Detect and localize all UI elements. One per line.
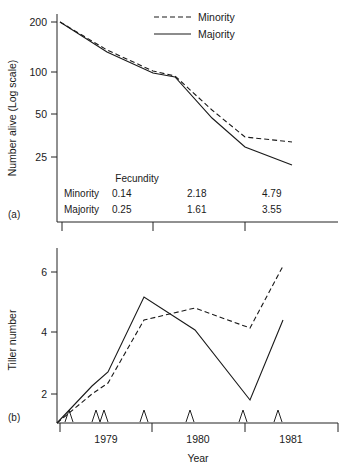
panel-a-ytick-label-200: 200 — [29, 16, 47, 28]
census-marker-6 — [239, 410, 247, 422]
panel-b-series-majority — [57, 297, 283, 423]
fecundity-title: Fecundity — [115, 173, 158, 184]
fecundity-row-majority-name: Majority — [64, 204, 99, 215]
panel-b-ytick-label-6: 6 — [41, 266, 47, 278]
fecundity-row-majority-v2: 1.61 — [187, 204, 207, 215]
figure-svg: 200 100 50 25 Number alive (Log scale) M… — [0, 0, 346, 467]
fecundity-row-minority-name: Minority — [64, 188, 99, 199]
panel-a-series-minority — [60, 22, 292, 142]
panel-a: 200 100 50 25 Number alive (Log scale) M… — [6, 11, 338, 231]
legend-label-majority: Majority — [198, 28, 236, 40]
fecundity-row-minority-v1: 0.14 — [112, 188, 132, 199]
panel-b-xtick-label-1981: 1981 — [279, 433, 303, 445]
panel-a-series-majority — [60, 22, 292, 165]
panel-a-legend: Minority Majority — [154, 11, 236, 40]
fecundity-row-minority-v2: 2.18 — [187, 188, 207, 199]
panel-b: 6 4 2 1979 1980 1981 Tiller number Year — [6, 248, 338, 464]
panel-b-label: (b) — [8, 412, 20, 423]
panel-a-label: (a) — [8, 209, 20, 220]
census-marker-3 — [100, 410, 108, 422]
panel-b-x-axis-title: Year — [187, 452, 209, 464]
panel-b-xtick-label-1979: 1979 — [94, 433, 118, 445]
census-markers — [65, 410, 282, 422]
census-marker-2 — [92, 410, 100, 422]
panel-b-ytick-label-4: 4 — [41, 326, 47, 338]
panel-a-ytick-label-100: 100 — [29, 66, 47, 78]
figure-container: 200 100 50 25 Number alive (Log scale) M… — [0, 0, 346, 467]
fecundity-table: Fecundity Minority 0.14 2.18 4.79 Majori… — [64, 173, 282, 215]
fecundity-row-majority-v1: 0.25 — [112, 204, 132, 215]
legend-label-minority: Minority — [198, 11, 236, 23]
panel-b-ytick-label-2: 2 — [41, 388, 47, 400]
census-marker-5 — [186, 410, 194, 422]
fecundity-row-majority-v3: 3.55 — [262, 204, 282, 215]
census-marker-7 — [274, 410, 282, 422]
panel-b-xtick-label-1980: 1980 — [186, 433, 210, 445]
panel-a-y-axis-title: Number alive (Log scale) — [6, 60, 18, 177]
fecundity-row-minority-v3: 4.79 — [262, 188, 282, 199]
panel-a-ytick-label-50: 50 — [35, 108, 47, 120]
panel-a-ytick-label-25: 25 — [35, 151, 47, 163]
census-marker-4 — [140, 410, 148, 422]
panel-b-y-axis-title: Tiller number — [6, 309, 18, 370]
